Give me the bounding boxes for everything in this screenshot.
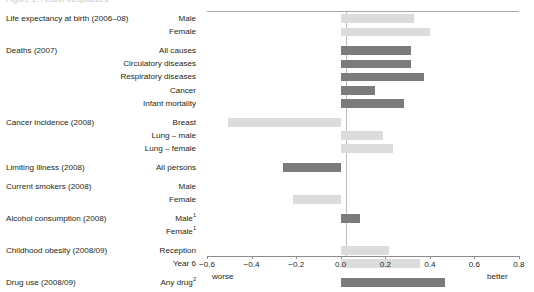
bar [341, 60, 411, 69]
footnote-marker: 1 [193, 212, 196, 218]
x-tick-label: 0.4 [424, 260, 435, 269]
label-row: Current smokers (2008)Male [0, 180, 200, 193]
series-label: Female [169, 25, 196, 38]
series-label: Breast [173, 116, 196, 129]
bar [341, 28, 430, 37]
series-label: Lung – female [145, 142, 196, 155]
label-row: Cancer [0, 84, 200, 97]
clipped-title: Figure 1: Health inequalities [6, 0, 108, 4]
series-label: Respiratory diseases [120, 70, 196, 83]
axis-worse-label: worse [212, 272, 234, 281]
series-label: Circulatory diseases [123, 57, 196, 70]
label-row: Cancer incidence (2008)Breast [0, 116, 200, 129]
x-tick-label: −0.6 [199, 260, 215, 269]
x-tick-label: 0.2 [380, 260, 391, 269]
bar [293, 195, 341, 204]
series-label: Year 6 [173, 257, 196, 270]
category-label: Current smokers (2008) [6, 180, 91, 193]
axis-better-label: better [487, 272, 508, 281]
bar [341, 46, 411, 55]
series-label: Cancer [170, 84, 196, 97]
x-tick-label: 0.8 [513, 260, 524, 269]
label-row: Lung – female [0, 142, 200, 155]
category-label: Alcohol consumption (2008) [6, 212, 106, 225]
bar [341, 131, 383, 140]
x-tick-label: 0.0 [335, 260, 346, 269]
label-row: Childhood obesity (2008/09)Reception [0, 244, 200, 257]
label-row: Female1 [0, 225, 200, 238]
category-label: Limiting Illness (2008) [6, 161, 85, 174]
x-tick [474, 256, 475, 259]
category-label: Deaths (2007) [6, 44, 57, 57]
x-tick [519, 256, 520, 259]
category-label-column: Life expectancy at birth (2006–08)MaleFe… [0, 12, 200, 256]
bar [341, 99, 405, 108]
series-label: Infant mortality [143, 97, 196, 110]
series-label: Any drug2 [160, 276, 196, 289]
x-tick [430, 256, 431, 259]
series-label: Male [178, 12, 196, 25]
series-label: Male1 [175, 212, 196, 225]
series-label: Female1 [166, 225, 196, 238]
bar [228, 118, 341, 127]
chart-figure: Figure 1: Health inequalities Life expec… [0, 0, 534, 292]
label-row: Circulatory diseases [0, 57, 200, 70]
bar [341, 214, 360, 223]
footnote-marker: 2 [193, 276, 196, 282]
label-row: Deaths (2007)All causes [0, 44, 200, 57]
x-tick [296, 256, 297, 259]
bar [341, 86, 376, 95]
label-row: Limiting Illness (2008)All persons [0, 161, 200, 174]
category-label: Life expectancy at birth (2006–08) [6, 12, 128, 25]
label-row: Year 6 [0, 257, 200, 270]
bar [341, 73, 425, 82]
bar [341, 144, 393, 153]
label-row: Life expectancy at birth (2006–08)Male [0, 12, 200, 25]
bar [283, 163, 341, 172]
bar [341, 14, 415, 23]
category-label: Drug use (2008/09) [6, 276, 76, 289]
x-tick-label: 0.6 [469, 260, 480, 269]
series-label: All persons [156, 161, 196, 174]
label-row: Female [0, 25, 200, 38]
label-row: Lung – male [0, 129, 200, 142]
x-tick-label: −0.4 [244, 260, 260, 269]
series-label: Female [169, 193, 196, 206]
x-tick [252, 256, 253, 259]
series-label: Male [178, 180, 196, 193]
series-label: Reception [160, 244, 196, 257]
label-row: Female [0, 193, 200, 206]
category-label: Cancer incidence (2008) [6, 116, 94, 129]
footnote-marker: 1 [193, 225, 196, 231]
series-label: All causes [159, 44, 196, 57]
label-row: Drug use (2008/09)Any drug2 [0, 276, 200, 289]
category-label: Childhood obesity (2008/09) [6, 244, 107, 257]
x-axis-line [207, 256, 519, 257]
bar [341, 246, 389, 255]
x-tick [385, 256, 386, 259]
x-tick [207, 256, 208, 259]
label-row: Respiratory diseases [0, 70, 200, 83]
series-label: Lung – male [151, 129, 196, 142]
label-row: Alcohol consumption (2008)Male1 [0, 212, 200, 225]
x-tick [341, 256, 342, 259]
plot-area [207, 12, 519, 256]
x-tick-label: −0.2 [288, 260, 304, 269]
bar [341, 278, 446, 287]
label-row: Infant mortality [0, 97, 200, 110]
